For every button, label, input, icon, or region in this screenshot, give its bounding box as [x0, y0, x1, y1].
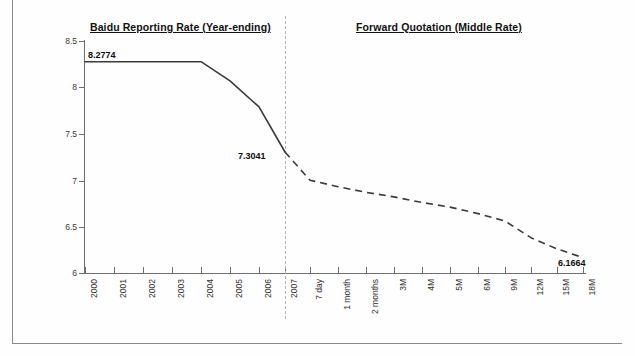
annotation-handoff-value: 7.3041	[238, 151, 266, 161]
annotation-start-value: 8.2774	[88, 50, 116, 60]
chart-page: Baidu Reporting Rate (Year-ending) Forwa…	[0, 0, 635, 356]
series-line-forward	[285, 152, 583, 258]
chart-canvas: Baidu Reporting Rate (Year-ending) Forwa…	[0, 0, 635, 356]
annotation-end-value: 6.1664	[558, 258, 586, 268]
series-line-historical	[85, 62, 285, 152]
